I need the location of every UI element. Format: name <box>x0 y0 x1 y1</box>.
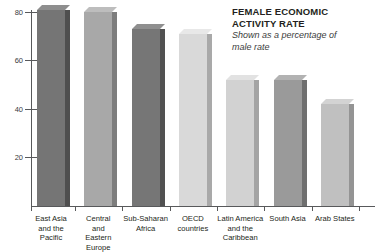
bar <box>226 80 254 206</box>
bar-front-face <box>274 80 302 206</box>
bar-side-face <box>112 12 117 206</box>
plot-area: 20406080 <box>0 0 375 207</box>
bar-side-face <box>207 34 212 206</box>
bar <box>321 104 349 206</box>
bar-front-face <box>132 29 160 206</box>
category-label: Central and Eastern Europe <box>75 214 121 252</box>
x-tick-mark <box>312 206 313 211</box>
bar <box>84 12 112 206</box>
bar <box>274 80 302 206</box>
x-tick-mark <box>122 206 123 211</box>
bar-side-face <box>349 104 354 206</box>
bar <box>132 29 160 206</box>
bar-side-face <box>254 80 259 206</box>
x-tick-mark <box>217 206 218 211</box>
bar-top-face <box>321 99 354 104</box>
category-label: OECD countries <box>170 214 216 233</box>
y-tick-mark <box>25 157 37 158</box>
bar-top-face <box>226 75 259 80</box>
bar-top-face <box>37 5 70 10</box>
category-label: Sub-Saharan Africa <box>123 214 169 233</box>
x-tick-mark <box>75 206 76 211</box>
y-tick-mark <box>25 60 37 61</box>
x-tick-mark <box>359 206 360 211</box>
category-label: South Asia <box>265 214 311 224</box>
y-tick-label: 80 <box>3 7 23 16</box>
bar-side-face <box>65 10 70 206</box>
category-label: Latin America and the Caribbean <box>217 214 263 243</box>
bar-side-face <box>302 80 307 206</box>
category-label: East Asia and the Pacific <box>28 214 74 243</box>
bar <box>37 10 65 206</box>
bar-front-face <box>179 34 207 206</box>
category-label: Arab States <box>312 214 358 224</box>
x-tick-mark <box>264 206 265 211</box>
bar <box>179 34 207 206</box>
bar-front-face <box>37 10 65 206</box>
x-tick-mark <box>31 206 32 211</box>
bar-top-face <box>274 75 307 80</box>
y-tick-label: 20 <box>3 153 23 162</box>
bar-top-face <box>179 29 212 34</box>
bar-front-face <box>226 80 254 206</box>
x-tick-mark <box>170 206 171 211</box>
bar-front-face <box>321 104 349 206</box>
y-tick-mark <box>25 109 37 110</box>
y-tick-label: 60 <box>3 56 23 65</box>
bar-side-face <box>160 29 165 206</box>
y-tick-label: 40 <box>3 104 23 113</box>
y-tick-mark <box>25 12 37 13</box>
chart-container: FEMALE ECONOMIC ACTIVITY RATE Shown as a… <box>0 0 375 252</box>
bar-front-face <box>84 12 112 206</box>
bar-top-face <box>84 7 117 12</box>
bar-top-face <box>132 24 165 29</box>
